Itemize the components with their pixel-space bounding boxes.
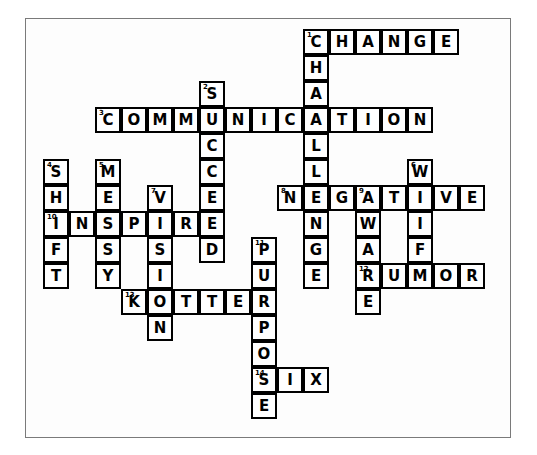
crossword-cell[interactable]: N bbox=[69, 211, 95, 237]
crossword-cell[interactable]: E bbox=[303, 263, 329, 289]
crossword-cell[interactable]: I bbox=[147, 211, 173, 237]
crossword-cell[interactable]: H bbox=[43, 185, 69, 211]
cell-letter: S bbox=[155, 243, 166, 258]
crossword-cell[interactable]: O bbox=[121, 107, 147, 133]
crossword-cell[interactable]: T bbox=[43, 263, 69, 289]
cell-letter: M bbox=[179, 113, 194, 128]
crossword-cell[interactable]: E bbox=[199, 211, 225, 237]
crossword-cell[interactable]: G bbox=[329, 185, 355, 211]
clue-number: 14 bbox=[255, 369, 265, 377]
crossword-cell[interactable]: L bbox=[303, 159, 329, 185]
crossword-cell[interactable]: R bbox=[251, 289, 277, 315]
crossword-cell[interactable]: A bbox=[303, 107, 329, 133]
crossword-cell[interactable]: E bbox=[251, 393, 277, 419]
crossword-cell[interactable]: S bbox=[147, 237, 173, 263]
crossword-cell[interactable]: 12R bbox=[355, 263, 381, 289]
cell-letter: N bbox=[154, 321, 167, 336]
crossword-cell[interactable]: G bbox=[303, 237, 329, 263]
crossword-cell[interactable]: U bbox=[199, 107, 225, 133]
crossword-cell[interactable]: O bbox=[147, 289, 173, 315]
crossword-page: 1CHANGEH2SA3COMMUNICATIONCL4S5MCL6WHE7VE… bbox=[0, 0, 537, 455]
crossword-cell[interactable]: N bbox=[407, 107, 433, 133]
crossword-cell[interactable]: M bbox=[173, 107, 199, 133]
cell-letter: R bbox=[466, 269, 478, 284]
crossword-cell[interactable]: N bbox=[147, 315, 173, 341]
crossword-cell[interactable]: W bbox=[355, 211, 381, 237]
crossword-cell[interactable]: R bbox=[173, 211, 199, 237]
crossword-cell[interactable]: N bbox=[303, 211, 329, 237]
crossword-cell[interactable]: F bbox=[43, 237, 69, 263]
crossword-cell[interactable]: I bbox=[251, 107, 277, 133]
crossword-cell[interactable]: X bbox=[303, 367, 329, 393]
crossword-cell[interactable]: E bbox=[95, 185, 121, 211]
crossword-cell[interactable]: F bbox=[407, 237, 433, 263]
crossword-cell[interactable]: H bbox=[329, 29, 355, 55]
crossword-cell[interactable]: E bbox=[355, 289, 381, 315]
crossword-cell[interactable]: 3C bbox=[95, 107, 121, 133]
crossword-cell[interactable]: 9A bbox=[355, 185, 381, 211]
crossword-cell[interactable]: E bbox=[225, 289, 251, 315]
crossword-cell[interactable]: C bbox=[277, 107, 303, 133]
crossword-cell[interactable]: U bbox=[251, 263, 277, 289]
crossword-cell[interactable]: T bbox=[199, 289, 225, 315]
crossword-cell[interactable]: I bbox=[277, 367, 303, 393]
crossword-cell[interactable]: T bbox=[329, 107, 355, 133]
crossword-cell[interactable]: 8N bbox=[277, 185, 303, 211]
cell-letter: E bbox=[311, 191, 321, 206]
crossword-cell[interactable]: I bbox=[407, 211, 433, 237]
crossword-cell[interactable]: A bbox=[355, 237, 381, 263]
crossword-cell[interactable]: I bbox=[355, 107, 381, 133]
crossword-cell[interactable]: V bbox=[433, 185, 459, 211]
cell-letter: I bbox=[417, 217, 423, 232]
cell-letter: H bbox=[310, 61, 323, 76]
crossword-cell[interactable]: I bbox=[147, 263, 173, 289]
crossword-cell[interactable]: 1C bbox=[303, 29, 329, 55]
crossword-cell[interactable]: P bbox=[251, 315, 277, 341]
crossword-cell[interactable]: 14S bbox=[251, 367, 277, 393]
crossword-cell[interactable]: C bbox=[199, 159, 225, 185]
crossword-cell[interactable]: 6W bbox=[407, 159, 433, 185]
crossword-cell[interactable]: R bbox=[459, 263, 485, 289]
crossword-cell[interactable]: S bbox=[95, 237, 121, 263]
crossword-cell[interactable]: Y bbox=[95, 263, 121, 289]
crossword-cell[interactable]: T bbox=[381, 185, 407, 211]
crossword-cell[interactable]: T bbox=[173, 289, 199, 315]
crossword-cell[interactable]: C bbox=[199, 133, 225, 159]
crossword-cell[interactable]: D bbox=[199, 237, 225, 263]
crossword-cell[interactable]: E bbox=[303, 185, 329, 211]
crossword-cell[interactable]: 11P bbox=[251, 237, 277, 263]
crossword-cell[interactable]: 5M bbox=[95, 159, 121, 185]
crossword-cell[interactable]: U bbox=[381, 263, 407, 289]
crossword-cell[interactable]: P bbox=[121, 211, 147, 237]
crossword-cell[interactable]: M bbox=[407, 263, 433, 289]
cell-letter: A bbox=[310, 87, 322, 102]
crossword-cell[interactable]: 4S bbox=[43, 159, 69, 185]
cell-letter: S bbox=[207, 87, 218, 102]
crossword-cell[interactable]: E bbox=[199, 185, 225, 211]
crossword-cell[interactable]: E bbox=[459, 185, 485, 211]
crossword-cell[interactable]: H bbox=[303, 55, 329, 81]
crossword-cell[interactable]: I bbox=[407, 185, 433, 211]
cell-letter: E bbox=[311, 269, 321, 284]
cell-letter: E bbox=[207, 217, 217, 232]
crossword-cell[interactable]: G bbox=[407, 29, 433, 55]
cell-letter: M bbox=[153, 113, 168, 128]
crossword-cell[interactable]: S bbox=[95, 211, 121, 237]
cell-letter: S bbox=[103, 217, 114, 232]
crossword-cell[interactable]: L bbox=[303, 133, 329, 159]
crossword-cell[interactable]: 2S bbox=[199, 81, 225, 107]
crossword-cell[interactable]: M bbox=[147, 107, 173, 133]
cell-letter: N bbox=[310, 217, 323, 232]
crossword-cell[interactable]: N bbox=[381, 29, 407, 55]
crossword-cell[interactable]: O bbox=[381, 107, 407, 133]
crossword-cell[interactable]: O bbox=[433, 263, 459, 289]
crossword-cell[interactable]: A bbox=[355, 29, 381, 55]
cell-letter: Y bbox=[103, 269, 114, 284]
crossword-cell[interactable]: 10I bbox=[43, 211, 69, 237]
crossword-cell[interactable]: 7V bbox=[147, 185, 173, 211]
crossword-cell[interactable]: A bbox=[303, 81, 329, 107]
crossword-cell[interactable]: O bbox=[251, 341, 277, 367]
crossword-cell[interactable]: N bbox=[225, 107, 251, 133]
crossword-cell[interactable]: 13K bbox=[121, 289, 147, 315]
crossword-cell[interactable]: E bbox=[433, 29, 459, 55]
